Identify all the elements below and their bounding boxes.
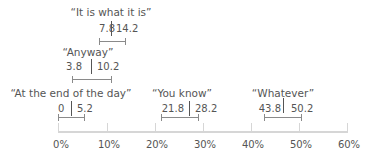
range-bar <box>161 117 198 118</box>
series-label: “It is what it is” <box>70 6 151 18</box>
low-value: 3.8 <box>66 61 82 72</box>
separator <box>111 21 112 36</box>
range-high-tick <box>84 114 85 121</box>
low-value: 43.8 <box>259 103 281 114</box>
low-value: 21.8 <box>162 103 184 114</box>
range-low-tick <box>58 114 59 121</box>
axis-tick-label: 10% <box>98 139 120 150</box>
axis-tick <box>107 123 108 132</box>
range-low-tick <box>99 38 100 45</box>
series-label: “At the end of the day” <box>10 87 131 99</box>
series-label: “Anyway” <box>63 46 114 58</box>
range-high-tick <box>111 76 112 83</box>
range-low-tick <box>264 114 265 121</box>
low-value: 0 <box>58 103 64 114</box>
high-value: 50.2 <box>291 103 313 114</box>
axis-tick-label: 60% <box>338 139 360 150</box>
axis-tick <box>251 123 252 132</box>
range-low-tick <box>72 76 73 83</box>
axis-tick <box>203 123 204 132</box>
separator <box>189 101 190 116</box>
range-bar <box>264 117 301 118</box>
axis-tick <box>299 123 300 132</box>
separator <box>283 98 284 113</box>
range-bar <box>99 41 126 42</box>
axis-tick <box>347 123 348 132</box>
high-value: 28.2 <box>195 103 217 114</box>
high-value: 5.2 <box>77 103 93 114</box>
axis-tick <box>155 123 156 132</box>
range-high-tick <box>125 38 126 45</box>
axis-tick-label: 0% <box>53 139 69 150</box>
range-bar <box>72 79 111 80</box>
separator <box>91 59 92 74</box>
range-bar <box>58 117 84 118</box>
axis-tick-label: 50% <box>290 139 312 150</box>
axis-tick <box>58 123 59 132</box>
high-value: 14.2 <box>116 23 138 34</box>
range-high-tick <box>198 114 199 121</box>
axis-tick-label: 30% <box>194 139 216 150</box>
range-high-tick <box>301 114 302 121</box>
range-low-tick <box>161 114 162 121</box>
low-value: 7.8 <box>99 23 115 34</box>
axis-tick-label: 40% <box>242 139 264 150</box>
axis-tick-label: 20% <box>146 139 168 150</box>
high-value: 10.2 <box>97 61 119 72</box>
series-label: “You know” <box>152 87 212 99</box>
separator <box>71 101 72 116</box>
